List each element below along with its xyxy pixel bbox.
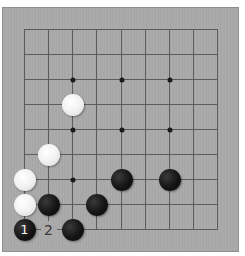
- grid-line-vertical: [145, 29, 146, 230]
- black-stone[interactable]: [86, 194, 108, 216]
- black-stone[interactable]: 1: [14, 219, 36, 241]
- point-label[interactable]: 2: [41, 221, 57, 239]
- white-stone[interactable]: [14, 169, 36, 191]
- black-stone[interactable]: [62, 219, 84, 241]
- grid-line-vertical: [193, 29, 194, 230]
- star-point: [70, 177, 75, 182]
- star-point: [119, 127, 124, 132]
- star-point: [70, 77, 75, 82]
- star-point: [70, 127, 75, 132]
- star-point: [167, 77, 172, 82]
- white-stone[interactable]: [14, 194, 36, 216]
- white-stone[interactable]: [62, 94, 84, 116]
- black-stone[interactable]: [111, 169, 133, 191]
- star-point: [167, 127, 172, 132]
- move-number: 1: [20, 222, 28, 237]
- star-point: [119, 77, 124, 82]
- black-stone[interactable]: [38, 194, 60, 216]
- black-stone[interactable]: [159, 169, 181, 191]
- white-stone[interactable]: [38, 144, 60, 166]
- grid-line-vertical: [217, 29, 218, 230]
